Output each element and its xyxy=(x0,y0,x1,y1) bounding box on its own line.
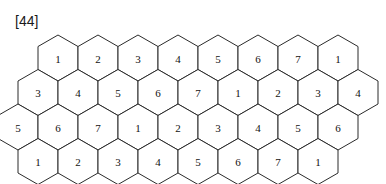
hex-cell-label: 6 xyxy=(335,122,341,134)
hex-cell-label: 5 xyxy=(295,122,301,134)
hex-cell-label: 1 xyxy=(335,53,341,65)
hex-cell-label: 1 xyxy=(55,53,61,65)
hex-cell-label: 4 xyxy=(75,87,81,99)
honeycomb-hexagon-grid: 1234567134567123456712345612345671 xyxy=(0,0,386,184)
hex-cell-label: 3 xyxy=(215,122,221,134)
hex-cell-label: 2 xyxy=(75,156,81,168)
hex-cell-label: 4 xyxy=(255,122,261,134)
hex-cell-label: 6 xyxy=(235,156,241,168)
hex-cell-label: 4 xyxy=(155,156,161,168)
hex-cell-label: 7 xyxy=(195,87,201,99)
hex-cell-label: 2 xyxy=(95,53,101,65)
hex-cell-label: 2 xyxy=(175,122,181,134)
hex-cell-label: 1 xyxy=(235,87,241,99)
hex-cell-label: 2 xyxy=(275,87,281,99)
hex-cell-label: 6 xyxy=(155,87,161,99)
hex-cell-label: 3 xyxy=(315,87,321,99)
hex-cell-label: 4 xyxy=(175,53,181,65)
hex-cell-label: 3 xyxy=(35,87,41,99)
hex-cell-label: 1 xyxy=(315,156,321,168)
hex-cell-label: 7 xyxy=(295,53,301,65)
hex-cell-label: 1 xyxy=(35,156,41,168)
hex-cell-label: 1 xyxy=(135,122,141,134)
hex-cell-label: 6 xyxy=(255,53,261,65)
hex-cell-label: 3 xyxy=(135,53,141,65)
hex-cell-label: 5 xyxy=(195,156,201,168)
figure-page: [44] 1234567134567123456712345612345671 xyxy=(0,0,386,184)
hex-cell-label: 5 xyxy=(15,122,21,134)
hex-cell-label: 5 xyxy=(215,53,221,65)
hexagon-cell-group: 1234567134567123456712345612345671 xyxy=(0,35,378,184)
hex-cell-label: 4 xyxy=(355,87,361,99)
hex-cell-label: 5 xyxy=(115,87,121,99)
hex-cell-label: 7 xyxy=(275,156,281,168)
hex-cell-label: 6 xyxy=(55,122,61,134)
hex-cell-label: 7 xyxy=(95,122,101,134)
hex-cell-label: 3 xyxy=(115,156,121,168)
